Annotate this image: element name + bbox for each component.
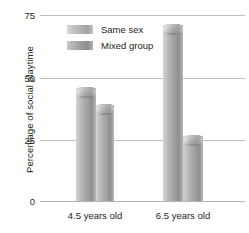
gridline-75 xyxy=(40,15,245,16)
x-axis-label-6-5-years: 6.5 years old xyxy=(156,210,210,221)
legend-swatch-mixed-group xyxy=(67,41,93,50)
gridline-25 xyxy=(40,140,245,141)
gridline-50 xyxy=(40,78,245,79)
gridline-group-25: 25 xyxy=(40,140,245,141)
legend-label-same-sex: Same sex xyxy=(101,24,143,35)
axis-baseline xyxy=(40,201,245,202)
gridline-group-50: 50 xyxy=(40,78,245,79)
bar-cap-shade xyxy=(163,25,183,35)
x-axis-label-4-5-years: 4.5 years old xyxy=(68,210,122,221)
legend-item-same-sex: Same sex xyxy=(67,23,153,36)
bar-4-5-same-sex xyxy=(76,88,96,201)
bar-cap-shade xyxy=(76,88,96,98)
y-tick-label-0: 0 xyxy=(30,196,35,207)
gridline-group-75: 75 xyxy=(40,15,245,16)
bar-chart: Percentage of social playtime 75 50 25 0 xyxy=(0,0,249,233)
y-tick-label-25: 25 xyxy=(24,135,35,146)
y-tick-label-50: 50 xyxy=(24,73,35,84)
legend-swatch-same-sex xyxy=(67,25,93,34)
gridline-group-0: 0 xyxy=(40,201,245,202)
bar-6-5-same-sex xyxy=(163,25,183,201)
bar-cap-shade xyxy=(96,105,114,115)
y-tick-label-75: 75 xyxy=(24,10,35,21)
bar-cap-shade xyxy=(183,136,203,146)
bar-4-5-mixed-group xyxy=(96,105,114,201)
bar-6-5-mixed-group xyxy=(183,136,203,201)
legend: Same sex Mixed group xyxy=(67,23,153,55)
y-axis-title: Percentage of social playtime xyxy=(24,20,35,200)
legend-label-mixed-group: Mixed group xyxy=(101,40,153,51)
legend-item-mixed-group: Mixed group xyxy=(67,39,153,52)
